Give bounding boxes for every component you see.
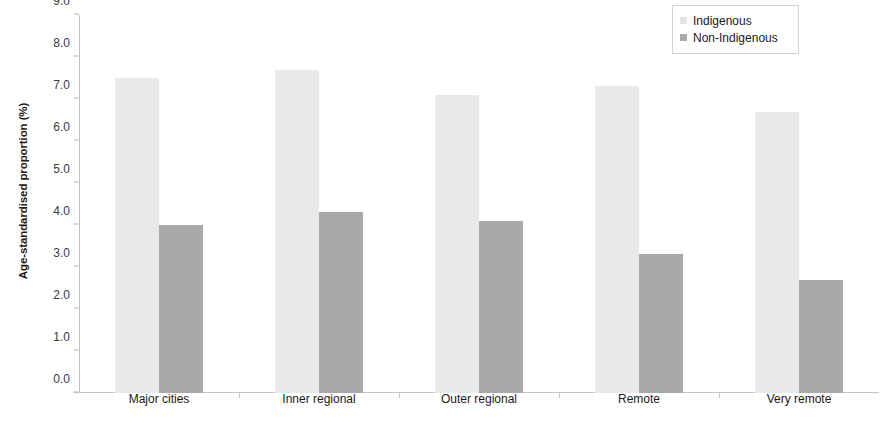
y-tick-label: 7.0 xyxy=(53,78,70,92)
x-axis-group-separator xyxy=(399,393,400,398)
x-axis-label-major-cities: Major cities xyxy=(129,392,190,406)
y-tick-mark xyxy=(74,308,79,309)
bar-indigenous-remote xyxy=(595,86,639,393)
x-axis-label-very-remote: Very remote xyxy=(767,392,832,406)
y-tick-mark xyxy=(74,98,79,99)
x-axis-label-remote: Remote xyxy=(618,392,660,406)
legend-label: Indigenous xyxy=(693,14,752,28)
plot-area: 0.01.02.03.04.05.06.07.08.09.0 xyxy=(79,15,879,393)
y-tick-label: 3.0 xyxy=(53,246,70,260)
y-tick-label: 6.0 xyxy=(53,120,70,134)
bar-non-indigenous-outer-regional xyxy=(479,221,523,393)
y-axis-line xyxy=(79,15,80,393)
x-axis-group-separator xyxy=(239,393,240,398)
bar-indigenous-outer-regional xyxy=(435,95,479,393)
y-tick-mark xyxy=(74,392,79,393)
y-axis-title: Age-standardised proportion (%) xyxy=(17,76,29,306)
bar-indigenous-major-cities xyxy=(115,78,159,393)
x-axis-group-separator xyxy=(559,393,560,398)
bar-non-indigenous-remote xyxy=(639,254,683,393)
y-tick-mark xyxy=(74,140,79,141)
bar-indigenous-inner-regional xyxy=(275,70,319,393)
x-axis-label-outer-regional: Outer regional xyxy=(441,392,517,406)
y-tick-label: 2.0 xyxy=(53,288,70,302)
bar-indigenous-very-remote xyxy=(755,112,799,393)
y-tick-mark xyxy=(74,182,79,183)
y-tick-mark xyxy=(74,14,79,15)
y-tick-label: 4.0 xyxy=(53,204,70,218)
y-tick-label: 9.0 xyxy=(53,0,70,8)
y-tick-label: 8.0 xyxy=(53,36,70,50)
legend-label: Non-Indigenous xyxy=(693,31,778,45)
bar-non-indigenous-very-remote xyxy=(799,280,843,393)
legend-item-indigenous[interactable]: Indigenous xyxy=(680,12,790,29)
y-tick-label: 0.0 xyxy=(53,372,70,386)
legend-swatch-indigenous xyxy=(680,17,687,24)
bar-non-indigenous-inner-regional xyxy=(319,212,363,393)
y-tick-mark xyxy=(74,224,79,225)
x-axis-group-separator xyxy=(719,393,720,398)
bar-non-indigenous-major-cities xyxy=(159,225,203,393)
legend-swatch-non-indigenous xyxy=(680,34,687,41)
y-tick-mark xyxy=(74,266,79,267)
legend-item-non-indigenous[interactable]: Non-Indigenous xyxy=(680,29,790,46)
y-tick-mark xyxy=(74,56,79,57)
y-tick-mark xyxy=(74,350,79,351)
y-tick-label: 1.0 xyxy=(53,330,70,344)
bar-chart: Age-standardised proportion (%) 0.01.02.… xyxy=(0,0,889,422)
x-axis-label-inner-regional: Inner regional xyxy=(282,392,355,406)
y-tick-label: 5.0 xyxy=(53,162,70,176)
chart-legend: IndigenousNon-Indigenous xyxy=(672,5,799,54)
